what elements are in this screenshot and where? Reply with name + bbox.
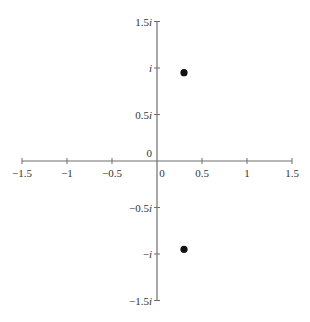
x-tick-label: 0 — [159, 167, 165, 179]
y-tick-label: −1.5i — [129, 295, 152, 307]
y-tick-label: i — [149, 62, 152, 74]
complex-plane-plot: −1.5−1−0.500.511.5 1.5ii0.5i0−0.5i−i−1.5… — [0, 0, 310, 322]
real-axis: −1.5−1−0.500.511.5 — [12, 158, 299, 179]
x-tick-label: 1.5 — [285, 167, 299, 179]
data-point — [180, 246, 187, 253]
y-tick-label: 0.5i — [135, 109, 152, 121]
x-tick-label: 0.5 — [195, 167, 209, 179]
y-tick-label: 0 — [147, 147, 153, 159]
x-tick-label: −1.5 — [12, 167, 32, 179]
x-tick-label: 1 — [244, 167, 250, 179]
x-tick-label: −1 — [61, 167, 73, 179]
y-tick-label: −0.5i — [129, 202, 152, 214]
y-tick-label: 1.5i — [135, 16, 152, 28]
x-tick-label: −0.5 — [102, 167, 122, 179]
data-point — [180, 69, 187, 76]
y-tick-label: −i — [143, 248, 152, 260]
